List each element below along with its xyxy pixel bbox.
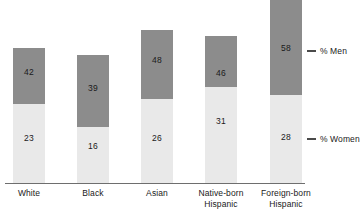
legend-label-men: % Men	[320, 46, 347, 56]
bar-value-men-native-born-hispanic: 46	[205, 69, 237, 78]
plot-area: 42 23 39 16 48 26 46	[0, 0, 363, 218]
legend-dash-women-icon	[307, 138, 316, 139]
bar-segment-women-white[interactable]: 23	[13, 104, 45, 183]
legend-dash-men-icon	[307, 50, 316, 51]
bar-segment-men-white[interactable]: 42	[13, 48, 45, 104]
x-axis-line	[5, 183, 305, 184]
bar-group-asian[interactable]: 48 26	[141, 30, 173, 183]
bar-group-foreign-born-hispanic[interactable]: 58 28	[270, 0, 302, 183]
bar-value-women-asian: 26	[141, 134, 173, 143]
legend-label-women: % Women	[320, 134, 360, 144]
bar-value-women-black: 16	[77, 142, 109, 151]
x-axis-label-foreign-born-hispanic-line2: Hispanic	[240, 199, 332, 210]
x-axis-label-foreign-born-hispanic: Foreign-born Hispanic	[240, 188, 332, 210]
bar-value-men-asian: 48	[141, 56, 173, 65]
bar-segment-men-native-born-hispanic[interactable]: 46	[205, 36, 237, 87]
legend-entry-men: % Men	[307, 46, 347, 56]
x-axis-label-foreign-born-hispanic-line1: Foreign-born	[240, 188, 332, 199]
bar-segment-men-foreign-born-hispanic[interactable]: 58	[270, 0, 302, 95]
bar-group-white[interactable]: 42 23	[13, 48, 45, 183]
bar-segment-women-native-born-hispanic[interactable]: 31	[205, 87, 237, 183]
bar-group-native-born-hispanic[interactable]: 46 31	[205, 36, 237, 183]
bar-value-women-foreign-born-hispanic: 28	[270, 133, 302, 142]
bar-value-men-foreign-born-hispanic: 58	[270, 44, 302, 53]
bar-value-men-black: 39	[77, 84, 109, 93]
bar-value-women-white: 23	[13, 134, 45, 143]
bar-segment-men-black[interactable]: 39	[77, 55, 109, 127]
bar-segment-men-asian[interactable]: 48	[141, 30, 173, 99]
bar-value-men-white: 42	[13, 68, 45, 77]
bar-segment-women-black[interactable]: 16	[77, 127, 109, 183]
legend-entry-women: % Women	[307, 134, 360, 144]
stacked-bar-chart: 42 23 39 16 48 26 46	[0, 0, 363, 218]
bar-segment-women-foreign-born-hispanic[interactable]: 28	[270, 95, 302, 183]
bar-value-women-native-born-hispanic: 31	[205, 117, 237, 126]
bar-segment-women-asian[interactable]: 26	[141, 99, 173, 183]
bar-group-black[interactable]: 39 16	[77, 55, 109, 183]
